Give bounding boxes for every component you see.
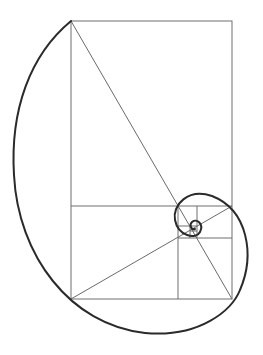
background (0, 0, 263, 355)
golden-spiral-diagram (0, 0, 263, 355)
